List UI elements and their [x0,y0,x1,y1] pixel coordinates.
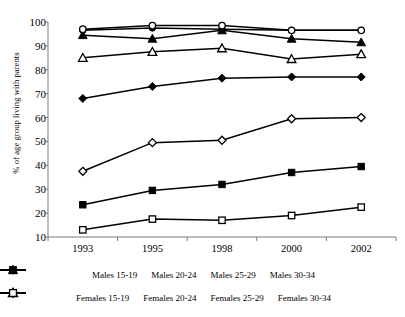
legend-label: Females 20-24 [143,293,196,303]
x-tick-label: 2002 [351,243,372,254]
legend-label: Males 15-19 [92,270,137,280]
legend-item[interactable]: Males 20-24 [149,270,196,280]
legend-label: Males 30-34 [270,270,315,280]
legend-item[interactable]: Females 30-34 [276,293,331,303]
filled-square-marker-icon [0,264,26,276]
x-tick-label: 1998 [212,243,233,254]
x-tick-label: 1993 [72,243,93,254]
legend-row-males: Males 15-19Males 20-24Males 25-29Males 3… [0,264,405,286]
series-females-30-34 [80,204,365,233]
line-chart-svg [0,0,405,264]
series-males-30-34 [80,163,365,208]
series-males-25-29 [79,73,365,103]
x-tick-label: 2000 [281,243,302,254]
legend-item[interactable]: Females 15-19 [74,293,129,303]
x-tick-label: 1995 [142,243,163,254]
hollow-square-marker-icon [0,287,26,299]
chart-container: % of age group living with parents 10203… [0,0,405,317]
legend-row-females: Females 15-19Females 20-24Females 25-29F… [0,287,405,309]
series-females-20-24 [78,44,365,63]
chart-legend: Males 15-19Males 20-24Males 25-29Males 3… [0,264,405,317]
legend-item[interactable]: Males 25-29 [209,270,256,280]
legend-label: Females 15-19 [76,293,129,303]
legend-label: Females 25-29 [211,293,264,303]
legend-label: Males 25-29 [211,270,256,280]
legend-item[interactable]: Females 20-24 [141,293,196,303]
legend-label: Males 20-24 [151,270,196,280]
legend-item[interactable]: Females 25-29 [209,293,264,303]
legend-item[interactable]: Males 30-34 [268,270,315,280]
legend-item[interactable]: Males 15-19 [90,270,137,280]
plot-area: % of age group living with parents 10203… [0,0,405,264]
legend-label: Females 30-34 [278,293,331,303]
series-females-25-29 [79,114,365,176]
